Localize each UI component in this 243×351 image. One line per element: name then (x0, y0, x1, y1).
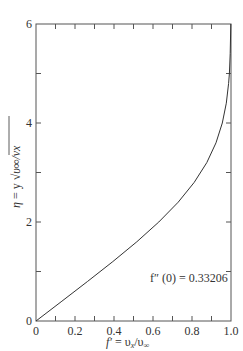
blasius-chart: 00.20.40.60.81.00246 f″ (0) = 0.33206 f′… (0, 0, 243, 351)
x-axis-label: f′ = υx/υ∞ (106, 335, 150, 350)
y-tick-label: 4 (26, 116, 32, 130)
x-tick-label: 0.2 (68, 324, 83, 338)
x-tick-label: 1.0 (224, 324, 239, 338)
y-axis-label: η = y √υ∞/νx (9, 116, 23, 208)
svg-text:η = y √υ∞/νx: η = y √υ∞/νx (9, 145, 23, 208)
x-tick-label: 0.8 (185, 324, 200, 338)
tick-labels: 00.20.40.60.81.00246 (26, 17, 239, 338)
y-tick-label: 0 (26, 314, 32, 328)
y-tick-label: 2 (26, 215, 32, 229)
x-tick-label: 0.6 (146, 324, 161, 338)
annotation-f-double-prime: f″ (0) = 0.33206 (150, 271, 228, 285)
y-tick-label: 6 (26, 17, 32, 31)
x-tick-label: 0 (33, 324, 39, 338)
